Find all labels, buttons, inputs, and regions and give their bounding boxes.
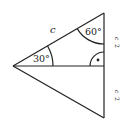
left-angle-label: 30° bbox=[33, 53, 50, 64]
right-angle-dot bbox=[97, 59, 100, 62]
svg-text:2: 2 bbox=[114, 44, 121, 48]
svg-text:c: c bbox=[114, 90, 121, 94]
hypotenuse-lower bbox=[13, 66, 104, 118]
top-angle-label: 60° bbox=[85, 26, 102, 37]
svg-text:2: 2 bbox=[114, 97, 121, 101]
hypotenuse-upper bbox=[13, 13, 104, 66]
upper-half-label: c 2 bbox=[114, 37, 121, 48]
triangle-diagram: c 60° 30° c 2 c 2 bbox=[0, 0, 129, 126]
right-angle-arc bbox=[90, 52, 104, 66]
hypotenuse-label: c bbox=[50, 24, 56, 35]
lower-half-label: c 2 bbox=[114, 90, 121, 101]
svg-text:c: c bbox=[114, 37, 121, 41]
